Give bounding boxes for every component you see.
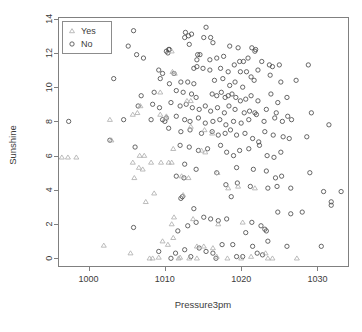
data-point-no [183,118,187,122]
data-point-no [294,78,298,82]
data-point-no [179,80,183,84]
data-point-no [274,111,278,115]
data-point-no [273,116,277,120]
data-point-no [203,121,207,125]
x-tick-label: 1000 [79,274,99,284]
data-point-yes [65,155,70,159]
data-point-no [279,174,283,178]
data-point-no [205,147,209,151]
data-point-no [231,153,235,157]
data-point-no [251,167,255,171]
data-point-no [263,130,267,134]
data-point-yes [172,215,177,219]
data-point-no [152,90,156,94]
data-point-no [150,102,154,106]
data-point-no [265,153,269,157]
data-point-no [211,41,215,45]
data-point-yes [165,242,170,246]
data-point-no [196,116,200,120]
data-point-no [183,248,187,252]
data-point-no [285,95,289,99]
data-point-no [194,95,198,99]
data-point-no [250,136,254,140]
data-point-no [204,25,208,29]
data-point-no [208,68,212,72]
data-point-no [259,224,263,228]
x-axis: 1000101010201030 [79,267,328,285]
data-point-no [194,167,198,171]
data-point-yes [158,90,163,94]
data-point-no [266,239,270,243]
data-point-no [289,118,293,122]
data-point-no [287,136,291,140]
data-point-no [273,176,277,180]
data-point-no [157,106,161,110]
data-point-yes [225,256,230,260]
data-point-yes [101,243,106,247]
y-axis: 02468101214 [44,14,58,261]
data-point-yes [59,155,64,159]
plot-box-border [59,18,349,267]
data-point-no [215,94,219,98]
data-point-no [233,107,237,111]
data-point-no [173,251,177,255]
data-point-no [160,71,164,75]
data-point-yes [171,235,176,239]
data-point-yes [249,254,254,258]
data-point-no [208,109,212,113]
y-tick-label: 0 [44,256,54,261]
data-point-no [252,78,256,82]
x-tick-label: 1030 [307,274,327,284]
data-point-no [308,171,312,175]
data-point-yes [169,222,174,226]
data-point-no [234,254,238,258]
data-point-yes [202,128,207,132]
data-point-no [211,119,215,123]
data-point-no [262,119,266,123]
data-point-no [232,63,236,67]
data-point-no [305,135,309,139]
data-point-no [187,42,191,46]
data-point-yes [128,251,133,255]
data-point-no [266,186,270,190]
data-point-no [186,80,190,84]
data-point-no [279,150,283,154]
data-point-no [176,229,180,233]
data-point-yes [252,186,257,190]
data-point-no [215,56,219,60]
data-point-no [233,80,237,84]
data-point-no [241,85,245,89]
data-point-yes [210,246,215,250]
data-point-no [224,123,228,127]
data-point-yes [149,160,154,164]
data-point-no [210,92,214,96]
data-point-no [220,242,224,246]
data-point-no [223,131,227,135]
data-point-no [169,100,173,104]
data-point-no [244,230,248,234]
plot-canvas: 02468101214 1000101010201030 YesNo Press… [0,0,362,332]
data-point-no [276,210,280,214]
data-point-no [157,249,161,253]
data-point-yes [130,160,135,164]
data-point-no [221,54,225,58]
plot-frame [59,18,349,267]
data-point-no [242,111,246,115]
data-point-yes [74,155,79,159]
data-point-no [211,251,215,255]
data-point-no [139,94,143,98]
data-point-no [225,150,229,154]
series-no-points [67,25,344,260]
data-point-no [183,162,187,166]
data-point-no [268,73,272,77]
legend: YesNo [63,22,112,54]
data-point-no [238,70,242,74]
data-point-no [248,184,252,188]
data-point-no [134,53,138,57]
data-point-no [231,119,235,123]
y-tick-label: 4 [44,187,54,192]
data-point-no [190,106,194,110]
data-point-no [255,251,259,255]
y-tick-label: 14 [44,14,54,24]
data-point-no [275,184,279,188]
